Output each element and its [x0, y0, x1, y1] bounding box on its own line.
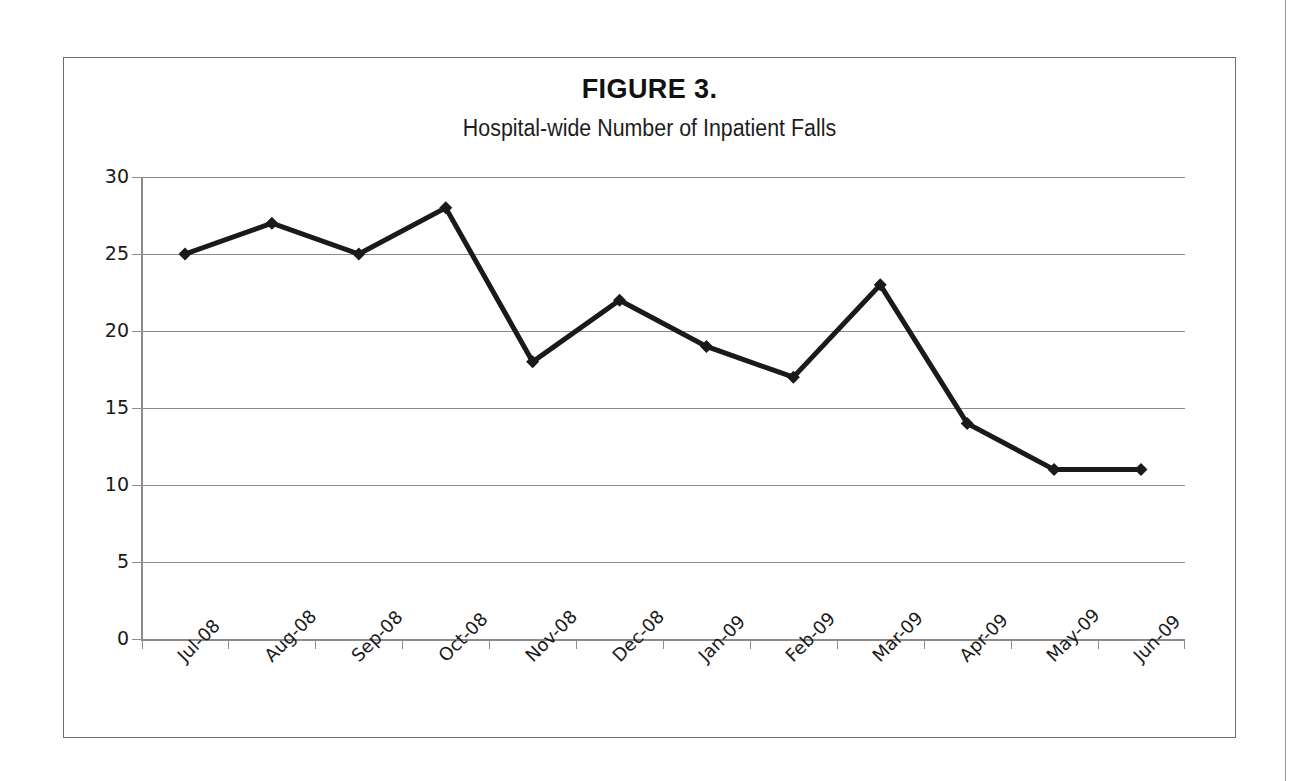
x-axis-labels: Jul-08Aug-08Sep-08Oct-08Nov-08Dec-08Jan-… [141, 639, 1185, 759]
figure-title: FIGURE 3. [64, 74, 1235, 105]
y-tick-15 [132, 408, 141, 409]
y-tick-25 [132, 254, 141, 255]
y-tick-label-20: 20 [69, 321, 129, 340]
y-tick-label-10: 10 [69, 475, 129, 494]
y-tick-label-25: 25 [69, 244, 129, 263]
data-point-Jul-08 [179, 248, 192, 261]
plot-area [141, 177, 1185, 639]
series-line [185, 208, 1141, 470]
y-tick-10 [132, 485, 141, 486]
y-tick-20 [132, 331, 141, 332]
figure-subtitle: Hospital-wide Number of Inpatient Falls [105, 115, 1194, 142]
data-point-Aug-08 [265, 217, 278, 230]
page-edge-rule [1285, 0, 1286, 781]
y-tick-30 [132, 177, 141, 178]
y-tick-label-15: 15 [69, 398, 129, 417]
y-tick-label-5: 5 [69, 552, 129, 571]
y-tick-label-0: 0 [69, 629, 129, 648]
y-tick-0 [132, 639, 141, 640]
y-tick-label-30: 30 [69, 167, 129, 186]
line-series [141, 177, 1185, 639]
figure-page: FIGURE 3. Hospital-wide Number of Inpati… [0, 0, 1299, 781]
y-tick-5 [132, 562, 141, 563]
data-point-Jun-09 [1135, 463, 1148, 476]
y-axis-labels: 051015202530 [69, 177, 129, 639]
